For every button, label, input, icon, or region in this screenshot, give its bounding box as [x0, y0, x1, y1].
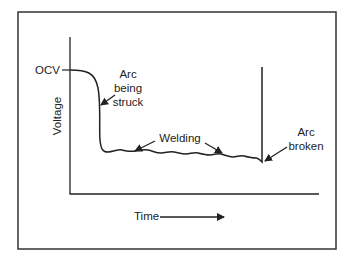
arc-broken-line1: Arc — [297, 126, 315, 138]
arc-struck-line1: Arc — [119, 68, 137, 80]
arc-broken-line2: broken — [288, 140, 323, 152]
ocv-label: OCV — [35, 64, 60, 76]
arc-struck-line3: struck — [113, 96, 144, 108]
welding-voltage-diagram: Voltage OCV Arc being struck Welding Arc… — [0, 0, 348, 266]
y-axis-label: Voltage — [51, 97, 63, 135]
voltage-curve — [70, 67, 262, 162]
arc-struck-line2: being — [114, 82, 142, 94]
x-axis-label: Time — [134, 210, 159, 222]
welding-label: Welding — [159, 132, 200, 144]
welding-arrow-right — [205, 143, 222, 153]
arc-broken-arrow — [265, 147, 287, 161]
outer-frame — [18, 12, 336, 249]
